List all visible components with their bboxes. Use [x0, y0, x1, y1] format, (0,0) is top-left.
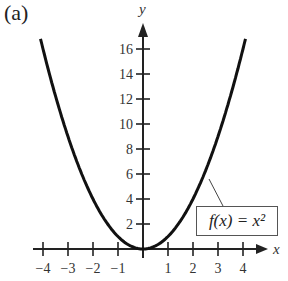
x-axis-label: x: [272, 241, 280, 257]
y-tick-label: 14: [119, 67, 133, 82]
y-tick-label: 16: [119, 42, 133, 57]
label-leader-line: [209, 179, 223, 206]
x-tick-label: −2: [86, 261, 101, 276]
x-tick-label: 1: [165, 261, 172, 276]
y-axis-label: y: [137, 1, 146, 17]
y-tick-label: 12: [119, 92, 133, 107]
x-tick-label: 4: [240, 261, 247, 276]
y-tick-label: 2: [126, 217, 133, 232]
function-label: f(x) = x²: [209, 211, 265, 231]
x-tick-label: 3: [215, 261, 222, 276]
plot-area: xy−4−3−2−11234246810121416: [0, 0, 288, 281]
x-tick-label: 2: [190, 261, 197, 276]
x-tick-label: −4: [36, 261, 51, 276]
y-tick-label: 4: [126, 192, 133, 207]
x-tick-label: −3: [61, 261, 76, 276]
y-tick-label: 10: [119, 117, 133, 132]
x-axis-arrow-icon: [256, 244, 268, 254]
y-tick-label: 6: [126, 167, 133, 182]
y-axis-arrow-icon: [138, 23, 148, 37]
x-tick-label: −1: [111, 261, 126, 276]
function-label-box: f(x) = x²: [196, 206, 278, 236]
y-tick-label: 8: [126, 142, 133, 157]
